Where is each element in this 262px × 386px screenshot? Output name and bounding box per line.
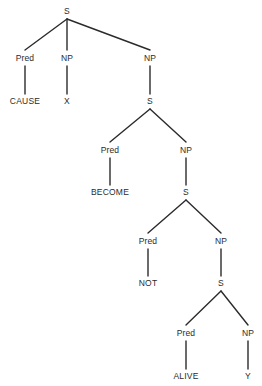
tree-branch-s1-np2 [67,19,150,50]
tree-diagram: SPredNPNPCAUSEXSPredNPBECOMESPredNPNOTSP… [0,0,262,386]
category-node-s1: S [64,7,70,16]
tree-branch-s4-np5 [221,291,248,325]
tree-branch-s4-pred4 [186,291,221,325]
category-node-np1: NP [61,54,73,63]
terminal-node-x: X [64,97,70,106]
tree-branch-s3-pred3 [148,200,186,233]
tree-branch-s2-np3 [150,109,186,142]
category-node-pred2: Pred [101,146,119,155]
category-node-pred4: Pred [177,329,195,338]
tree-branch-s3-np4 [186,200,221,233]
tree-branch-s2-pred2 [110,109,150,142]
tree-branch-s1-pred1 [25,19,67,50]
category-node-np5: NP [242,329,254,338]
terminal-node-y: Y [245,372,251,381]
terminal-node-cause: CAUSE [10,97,40,106]
category-node-np4: NP [215,237,227,246]
category-node-np2: NP [144,54,156,63]
tree-edges-layer [0,0,262,386]
terminal-node-alive: ALIVE [173,372,198,381]
category-node-s3: S [183,188,189,197]
category-node-s2: S [147,97,153,106]
terminal-node-not: NOT [139,279,158,288]
terminal-node-become: BECOME [91,188,129,197]
category-node-pred1: Pred [16,54,34,63]
category-node-s4: S [218,279,224,288]
category-node-np3: NP [180,146,192,155]
category-node-pred3: Pred [139,237,157,246]
